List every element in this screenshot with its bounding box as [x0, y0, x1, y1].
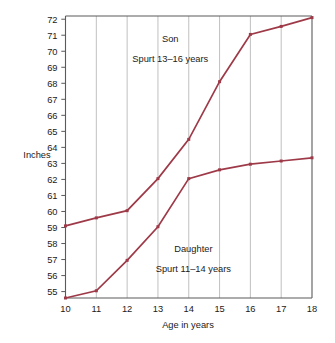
x-tick-label-10: 10 — [60, 304, 70, 314]
y-tick-label-70: 70 — [47, 47, 57, 57]
data-point-son-11 — [95, 216, 98, 219]
y-tick-label-63: 63 — [47, 159, 57, 169]
x-axis-tick-labels: 101112131415161718 — [60, 304, 317, 314]
y-tick-label-60: 60 — [47, 207, 57, 217]
daughter-label: Daughter — [174, 244, 212, 254]
y-tick-label-67: 67 — [47, 95, 57, 105]
y-axis-ticks — [61, 19, 65, 291]
data-point-daughter-16 — [249, 163, 252, 166]
x-tick-label-16: 16 — [245, 304, 255, 314]
data-point-son-17 — [280, 25, 283, 28]
x-tick-label-14: 14 — [184, 304, 194, 314]
x-tick-label-15: 15 — [214, 304, 224, 314]
x-tick-label-17: 17 — [276, 304, 286, 314]
data-point-son-18 — [311, 16, 314, 19]
data-point-son-12 — [126, 209, 129, 212]
x-tick-label-18: 18 — [307, 304, 317, 314]
data-point-son-16 — [249, 33, 252, 36]
y-tick-label-69: 69 — [47, 63, 57, 73]
data-point-daughter-11 — [95, 289, 98, 292]
son-spurt-label: Spurt 13–16 years — [132, 54, 208, 64]
data-point-son-13 — [156, 177, 159, 180]
data-point-daughter-15 — [218, 168, 221, 171]
x-axis-title: Age in years — [162, 320, 214, 330]
y-tick-label-61: 61 — [47, 191, 57, 201]
y-tick-label-62: 62 — [47, 175, 57, 185]
data-point-son-10 — [64, 224, 67, 227]
daughter-spurt-label: Spurt 11–14 years — [156, 264, 232, 274]
chart-container: 555657585960616263646566676869707172 101… — [0, 0, 335, 343]
data-point-daughter-18 — [311, 156, 314, 159]
y-tick-label-65: 65 — [47, 127, 57, 137]
y-tick-label-72: 72 — [47, 15, 57, 25]
son-label: Son — [162, 34, 179, 44]
y-tick-label-68: 68 — [47, 79, 57, 89]
x-tick-label-13: 13 — [153, 304, 163, 314]
data-point-daughter-17 — [280, 160, 283, 163]
data-point-son-15 — [218, 80, 221, 83]
data-point-daughter-10 — [64, 297, 67, 300]
data-point-son-14 — [187, 138, 190, 141]
data-point-daughter-12 — [126, 259, 129, 262]
data-point-daughter-13 — [156, 225, 159, 228]
y-tick-label-59: 59 — [47, 223, 57, 233]
y-tick-label-66: 66 — [47, 111, 57, 121]
y-tick-label-56: 56 — [47, 271, 57, 281]
y-tick-label-55: 55 — [47, 287, 57, 297]
y-tick-label-71: 71 — [47, 31, 57, 41]
y-tick-label-57: 57 — [47, 255, 57, 265]
y-tick-label-58: 58 — [47, 239, 57, 249]
y-axis-title: Inches — [23, 150, 51, 160]
x-tick-label-12: 12 — [122, 304, 132, 314]
data-point-daughter-14 — [187, 177, 190, 180]
x-tick-label-11: 11 — [91, 304, 101, 314]
growth-chart-svg: 555657585960616263646566676869707172 101… — [0, 0, 335, 343]
